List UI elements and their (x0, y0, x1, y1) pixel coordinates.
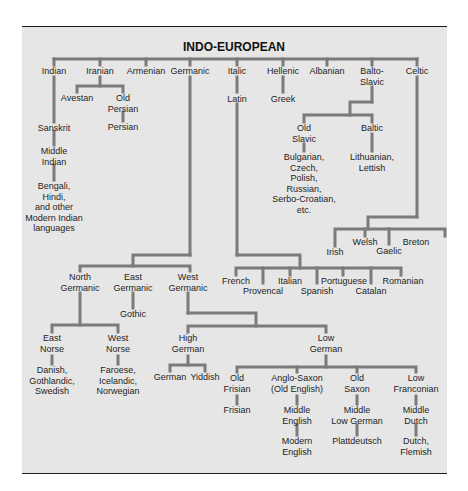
node-high-german: High German (172, 333, 205, 354)
node-iranian: Iranian (86, 66, 114, 77)
node-baltic-languages: Lithuanian, Lettish (350, 152, 394, 173)
node-yiddish: Yiddish (190, 372, 219, 383)
node-east-germanic: East Germanic (113, 272, 152, 293)
node-italic: Italic (228, 66, 247, 77)
node-avestan: Avestan (61, 93, 93, 104)
node-gothic: Gothic (120, 309, 146, 320)
node-middle-english: Middle English (282, 405, 312, 426)
node-catalan: Catalan (355, 286, 386, 297)
node-persian: Persian (108, 122, 139, 133)
node-irish: Irish (326, 247, 343, 258)
node-baltic: Baltic (361, 123, 383, 134)
node-balto-slavic: Balto- Slavic (360, 66, 384, 87)
node-portuguese: Portuguese (321, 276, 367, 287)
node-german: German (154, 372, 187, 383)
node-breton: Breton (403, 237, 430, 248)
node-middle-indian: Middle Indian (41, 146, 68, 167)
node-albanian: Albanian (309, 66, 344, 77)
node-plattdeutsch: Plattdeutsch (332, 436, 382, 447)
node-east-norse-languages: Danish, Gothlandic, Swedish (29, 365, 75, 397)
node-slavic-languages: Bulgarian, Czech, Polish, Russian, Serbo… (272, 152, 336, 215)
node-germanic: Germanic (170, 66, 209, 77)
node-west-germanic: West Germanic (168, 272, 207, 293)
node-low-german: Low German (310, 333, 343, 354)
node-middle-dutch: Middle Dutch (403, 405, 430, 426)
node-dutch-flemish: Dutch, Flemish (400, 436, 432, 457)
node-celtic: Celtic (406, 66, 429, 77)
node-spanish: Spanish (301, 286, 334, 297)
node-sanskrit: Sanskrit (38, 123, 71, 134)
node-middle-low-german: Middle Low German (331, 405, 383, 426)
node-modern-indian: Bengali, Hindi, and other Modern Indian … (25, 181, 83, 234)
node-old-slavic: Old Slavic (292, 123, 316, 144)
diagram-title: INDO-EUROPEAN (183, 40, 285, 54)
node-french: French (222, 276, 250, 287)
node-indian: Indian (42, 66, 67, 77)
node-welsh: Welsh (353, 237, 378, 248)
node-old-frisian: Old Frisian (223, 373, 250, 394)
node-gaelic: Gaelic (376, 246, 402, 257)
node-frisian: Frisian (223, 405, 250, 416)
node-romanian: Romanian (382, 276, 423, 287)
node-latin: Latin (227, 94, 247, 105)
node-anglo-saxon: Anglo-Saxon (Old English) (271, 373, 323, 394)
node-provencal: Provencal (243, 286, 283, 297)
node-old-saxon: Old Saxon (344, 373, 370, 394)
node-north-germanic: North Germanic (60, 272, 99, 293)
node-east-norse: East Norse (40, 333, 64, 354)
node-old-persian: Old Persian (108, 93, 139, 114)
node-italian: Italian (278, 276, 302, 287)
node-low-franconian: Low Franconian (393, 373, 438, 394)
node-west-norse-languages: Faroese, Icelandic, Norwegian (96, 365, 139, 397)
node-hellenic: Hellenic (267, 66, 299, 77)
node-modern-english: Modern English (282, 436, 313, 457)
node-armenian: Armenian (127, 66, 166, 77)
node-west-norse: West Norse (106, 333, 130, 354)
node-greek: Greek (271, 94, 296, 105)
